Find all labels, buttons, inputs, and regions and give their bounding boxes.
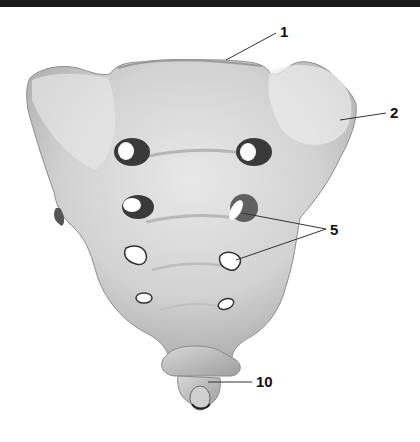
label-1: 1: [280, 24, 288, 39]
coccyx: [162, 346, 241, 410]
anterior-sacral-foramen-1-right: [236, 138, 272, 166]
label-5: 5: [330, 222, 338, 237]
label-10: 10: [256, 374, 273, 389]
label-2: 2: [390, 105, 398, 120]
anterior-sacral-foramen-4-left: [136, 293, 152, 303]
anterior-sacral-foramen-2-left: [122, 195, 154, 219]
sacrum-illustration: [0, 0, 420, 442]
leader-line-1: [226, 33, 276, 60]
anterior-sacral-foramen-1-left: [114, 138, 150, 166]
